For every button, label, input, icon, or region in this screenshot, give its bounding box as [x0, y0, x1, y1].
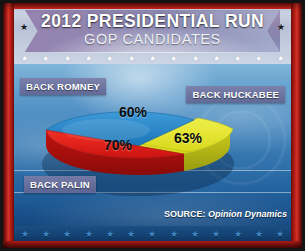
star-icon: ★ [106, 230, 114, 238]
frame-bottom-rail [3, 241, 302, 248]
slice-value-huckabee: 63% [174, 130, 202, 146]
graphic-stage: ★ ★ 2012 PRESIDENTIAL RUN GOP CANDIDATES… [14, 9, 291, 241]
star-strip-top: ★ ★ ★ ★ ★ ★ ★ ★ ★ ★ ★ ★ ★ [14, 53, 291, 64]
source-name: Opinion Dynamics [208, 209, 287, 219]
star-icon: ★ [213, 55, 220, 63]
star-icon: ★ [85, 230, 93, 238]
slice-value-romney: 60% [119, 104, 147, 120]
star-icon: ★ [276, 230, 284, 238]
star-icon: ★ [234, 230, 242, 238]
frame-right-rail [291, 3, 302, 248]
star-icon: ★ [127, 230, 135, 238]
legend-label-palin: BACK PALIN [24, 176, 96, 193]
star-icon: ★ [277, 55, 284, 63]
frame-top-rail [3, 3, 302, 9]
star-icon: ★ [212, 230, 220, 238]
legend-label-romney: BACK ROMNEY [20, 78, 106, 95]
star-icon: ★ [255, 55, 262, 63]
star-icon: ★ [42, 55, 49, 63]
star-icon: ★ [234, 55, 241, 63]
star-icon: ★ [149, 55, 156, 63]
star-icon: ★ [21, 230, 29, 238]
star-icon: ★ [85, 55, 92, 63]
star-icon: ★ [277, 22, 285, 32]
star-icon: ★ [148, 230, 156, 238]
page-title: 2012 PRESIDENTIAL RUN [14, 11, 291, 32]
star-icon: ★ [128, 55, 135, 63]
source-credit: SOURCE: Opinion Dynamics [164, 209, 287, 219]
star-icon: ★ [64, 55, 71, 63]
star-icon: ★ [255, 230, 263, 238]
star-icon: ★ [63, 230, 71, 238]
star-icon: ★ [192, 55, 199, 63]
star-icon: ★ [170, 230, 178, 238]
star-icon: ★ [191, 230, 199, 238]
star-icon: ★ [20, 22, 28, 32]
source-prefix: SOURCE: [164, 209, 206, 219]
star-icon: ★ [42, 230, 50, 238]
page-subtitle: GOP CANDIDATES [14, 31, 291, 47]
star-icon: ★ [170, 55, 177, 63]
star-icon: ★ [21, 55, 28, 63]
legend-label-huckabee: BACK HUCKABEE [186, 86, 285, 103]
slice-value-palin: 70% [104, 137, 132, 153]
frame-left-rail [3, 3, 14, 248]
header: ★ ★ 2012 PRESIDENTIAL RUN GOP CANDIDATES [14, 9, 291, 55]
chart-panel: 60% 70% 63% BACK ROMNEY BACK HUCKABEE BA… [14, 64, 291, 241]
star-icon: ★ [106, 55, 113, 63]
news-graphic: ★ ★ 2012 PRESIDENTIAL RUN GOP CANDIDATES… [0, 0, 305, 251]
star-strip-bottom: ★ ★ ★ ★ ★ ★ ★ ★ ★ ★ ★ ★ ★ [14, 226, 291, 241]
